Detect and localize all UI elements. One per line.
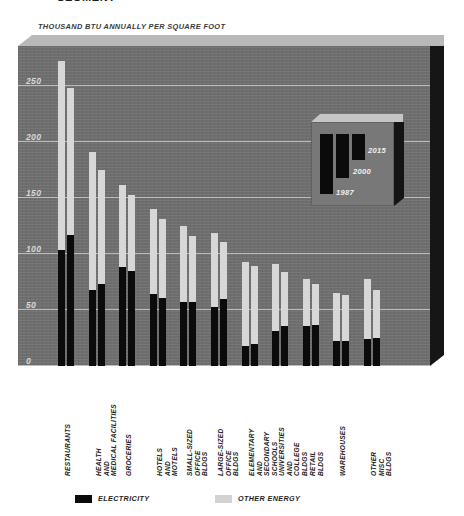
bar-2-1 (128, 195, 135, 366)
y-tick-50: 50 (26, 300, 56, 310)
bar-4-0 (180, 226, 187, 366)
category-label-9: WAREHOUSES (339, 372, 347, 476)
bar-2-0 (119, 185, 126, 366)
y-tick-200: 200 (26, 132, 56, 142)
bar-segment-electricity (333, 341, 340, 366)
bar-1-0 (89, 152, 96, 366)
y-tick-150: 150 (26, 188, 56, 198)
category-label-2: GROCERIES (125, 372, 133, 476)
inset-top-face (311, 114, 403, 122)
y-tick-100: 100 (26, 244, 56, 254)
bar-6-0 (242, 262, 249, 366)
bar-segment-electricity (98, 284, 105, 366)
bar-5-1 (220, 242, 227, 366)
category-label-0: RESTAURANTS (64, 372, 72, 476)
bar-10-1 (373, 290, 380, 366)
bar-10-0 (364, 279, 371, 366)
bar-segment-electricity (58, 250, 65, 366)
bar-segment-electricity (272, 331, 279, 366)
bar-segment-electricity (220, 299, 227, 366)
bar-segment-electricity (180, 302, 187, 366)
inset-year-2015: 2015 (368, 146, 386, 155)
year-inset-legend: 2015 2000 1987 (311, 114, 411, 206)
bar-segment-electricity (373, 338, 380, 366)
legend-label-other-energy: OTHER ENERGY (238, 494, 300, 503)
gridline-250 (18, 85, 430, 86)
bar-segment-electricity (303, 326, 310, 366)
bar-9-1 (342, 295, 349, 366)
category-label-7: UNIVERSITIESANDCOLLEGEBLDGS (278, 372, 308, 476)
legend-swatch-other-energy (215, 495, 232, 503)
bar-segment-electricity (242, 346, 249, 366)
chart-page: SEGMENT THOUSAND BTU ANNUALLY PER SQUARE… (0, 0, 464, 516)
bar-7-0 (272, 264, 279, 366)
bar-segment-electricity (312, 325, 319, 366)
bar-5-0 (211, 233, 218, 366)
legend-item-electricity: ELECTRICITY (75, 494, 150, 503)
bar-6-1 (251, 266, 258, 366)
y-tick-0: 0 (26, 356, 56, 366)
bar-8-0 (303, 279, 310, 366)
bar-3-1 (159, 219, 166, 366)
category-label-3: HOTELSANDMOTELS (156, 372, 179, 476)
bar-segment-electricity (150, 294, 157, 366)
bar-segment-electricity (119, 267, 126, 366)
inset-side-face (394, 122, 404, 206)
chart-legend: ELECTRICITY OTHER ENERGY (0, 494, 464, 508)
bar-1-1 (98, 170, 105, 366)
category-label-10: OTHERMISCBLDGS (370, 372, 393, 476)
y-tick-250: 250 (26, 76, 56, 86)
bar-segment-electricity (89, 290, 96, 366)
category-label-6: ELEMENTARYANDSECONDARYSCHOOLS (248, 372, 278, 476)
inset-bar-1987 (320, 134, 333, 194)
plot-area: 050100150200250 2015 2000 1987 (18, 46, 430, 366)
inset-year-2000: 2000 (353, 167, 371, 176)
legend-label-electricity: ELECTRICITY (98, 494, 150, 503)
inset-bar-2000 (336, 134, 349, 178)
inset-front-face: 2015 2000 1987 (311, 122, 394, 206)
category-label-1: HEALTHANDMEDICAL FACILITIES (95, 372, 118, 476)
bar-segment-electricity (67, 235, 74, 366)
bar-segment-electricity (128, 271, 135, 366)
plot-slab-side (430, 46, 444, 366)
bar-0-0 (58, 61, 65, 366)
bar-7-1 (281, 272, 288, 366)
category-label-4: SMALL-SIZEDOFFICEBLDGS (186, 372, 209, 476)
bar-segment-electricity (364, 339, 371, 366)
legend-item-other-energy: OTHER ENERGY (215, 494, 300, 503)
bar-0-1 (67, 88, 74, 366)
inset-year-1987: 1987 (336, 188, 354, 197)
bar-segment-electricity (211, 307, 218, 366)
plot-slab-top (18, 35, 444, 46)
bar-8-1 (312, 284, 319, 366)
bar-3-0 (150, 209, 157, 366)
category-label-8: RETAILBLDGS (309, 372, 324, 476)
page-title: SEGMENT (57, 0, 116, 5)
bar-4-1 (189, 236, 196, 366)
bar-segment-electricity (189, 302, 196, 366)
legend-swatch-electricity (75, 495, 92, 503)
bar-segment-electricity (159, 298, 166, 366)
bar-segment-electricity (342, 341, 349, 366)
category-label-5: LARGE-SIZEDOFFICEBLDGS (217, 372, 240, 476)
units-caption: THOUSAND BTU ANNUALLY PER SQUARE FOOT (38, 22, 225, 31)
bar-segment-electricity (281, 326, 288, 366)
bar-segment-electricity (251, 344, 258, 366)
bar-9-0 (333, 293, 340, 366)
inset-bar-2015 (352, 134, 365, 160)
